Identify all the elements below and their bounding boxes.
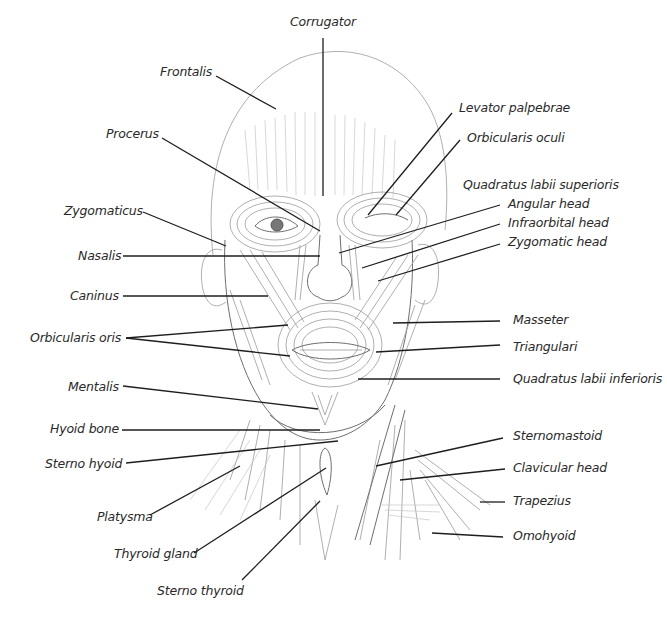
leader-triangulari	[376, 345, 500, 352]
leader-clavicular-head	[400, 469, 505, 480]
label-corrugator: Corrugator	[290, 15, 356, 29]
leader-orbicularis-oris-upper	[126, 325, 288, 338]
leader-orbicularis-oculi	[396, 140, 460, 215]
leader-sterno-hyoid	[126, 441, 338, 463]
label-levator-palpebrae: Levator palpebrae	[459, 101, 570, 115]
leader-infraorbital-head	[362, 224, 500, 268]
leader-angular-head	[339, 205, 500, 253]
leader-zygomatic-head	[378, 244, 500, 281]
label-zygomatic-head: Zygomatic head	[508, 235, 607, 249]
label-triangulari: Triangulari	[513, 340, 577, 354]
label-platysma: Platysma	[97, 510, 153, 524]
label-masseter: Masseter	[513, 313, 568, 327]
label-mentalis: Mentalis	[68, 380, 119, 394]
leader-procerus	[162, 138, 320, 231]
label-quadratus-labii-inferioris: Quadratus labii inferioris	[513, 372, 662, 386]
leader-sterno-thyroid	[242, 501, 320, 580]
label-quadratus-labii-superioris: Quadratus labii superioris	[463, 178, 619, 192]
label-sterno-hyoid: Sterno hyoid	[45, 457, 122, 471]
leader-omohyoid	[432, 533, 503, 537]
label-clavicular-head: Clavicular head	[513, 461, 607, 475]
label-omohyoid: Omohyoid	[513, 529, 575, 543]
leader-platysma	[150, 466, 240, 515]
leader-zygomaticus	[143, 212, 226, 246]
leader-mentalis	[123, 386, 318, 409]
leader-orbicularis-oris-lower	[126, 338, 290, 356]
label-nasalis: Nasalis	[78, 249, 121, 263]
label-sterno-thyroid: Sterno thyroid	[157, 584, 244, 598]
label-zygomaticus: Zygomaticus	[64, 204, 143, 218]
label-procerus: Procerus	[106, 127, 159, 141]
anatomy-diagram: Corrugator Frontalis Procerus Levator pa…	[0, 0, 667, 621]
label-sternomastoid: Sternomastoid	[513, 429, 602, 443]
leader-sternomastoid	[376, 438, 503, 466]
label-angular-head: Angular head	[508, 197, 589, 211]
label-frontalis: Frontalis	[160, 65, 212, 79]
leader-frontalis	[216, 76, 276, 109]
label-orbicularis-oculi: Orbicularis oculi	[467, 131, 564, 145]
label-trapezius: Trapezius	[513, 494, 571, 508]
label-infraorbital-head: Infraorbital head	[508, 216, 609, 230]
label-thyroid-gland: Thyroid gland	[114, 547, 197, 561]
label-hyoid-bone: Hyoid bone	[50, 422, 119, 436]
label-caninus: Caninus	[70, 289, 119, 303]
label-orbicularis-oris: Orbicularis oris	[30, 331, 121, 345]
leader-masseter	[393, 321, 500, 323]
